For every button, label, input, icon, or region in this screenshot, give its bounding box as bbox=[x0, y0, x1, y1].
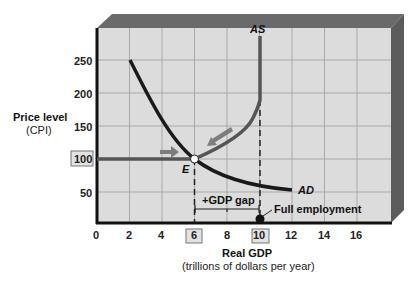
svg-text:100: 100 bbox=[74, 153, 92, 165]
svg-text:4: 4 bbox=[158, 229, 165, 241]
y-axis-title: Price level bbox=[13, 111, 67, 123]
svg-text:14: 14 bbox=[318, 229, 331, 241]
e-label: E bbox=[182, 163, 190, 175]
svg-text:2: 2 bbox=[126, 229, 132, 241]
svg-text:6: 6 bbox=[191, 229, 197, 241]
svg-text:0: 0 bbox=[93, 229, 99, 241]
svg-text:150: 150 bbox=[74, 121, 92, 133]
svg-text:200: 200 bbox=[74, 88, 92, 100]
svg-text:50: 50 bbox=[80, 187, 92, 199]
svg-text:16: 16 bbox=[350, 229, 362, 241]
x-tick-labels: 0 2 4 6 8 10 12 14 16 bbox=[93, 229, 362, 243]
y-axis-subtitle: (CPI) bbox=[26, 124, 52, 136]
x-axis-title: Real GDP bbox=[222, 247, 272, 259]
equilibrium-point bbox=[191, 155, 199, 163]
x-axis-subtitle: (trillions of dollars per year) bbox=[182, 260, 315, 272]
svg-text:12: 12 bbox=[285, 229, 297, 241]
y-tick-labels: 250 200 150 100 50 bbox=[71, 55, 93, 199]
svg-text:250: 250 bbox=[74, 55, 92, 67]
full-employment-label: Full employment bbox=[274, 203, 362, 215]
panel-right-bevel bbox=[391, 14, 404, 223]
svg-text:10: 10 bbox=[253, 229, 265, 241]
chart: E +GDP gap Full employment AS AD 250 200… bbox=[0, 0, 415, 286]
ad-label: AD bbox=[297, 184, 314, 196]
svg-text:8: 8 bbox=[224, 229, 230, 241]
gdp-gap-label: +GDP gap bbox=[202, 194, 255, 206]
as-label: AS bbox=[249, 23, 266, 35]
